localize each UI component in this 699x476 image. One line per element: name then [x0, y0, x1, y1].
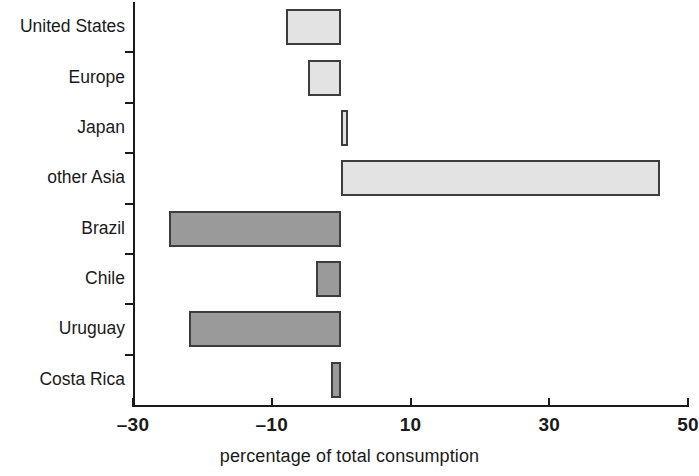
x-axis-tick-label: 30	[538, 414, 560, 436]
y-axis-category-label: Europe	[69, 67, 125, 88]
y-axis-category-label: Chile	[85, 268, 125, 289]
plot-area: United StatesEuropeJapanother AsiaBrazil…	[0, 0, 699, 476]
y-axis-category-label: United States	[20, 16, 125, 37]
y-axis-tick	[125, 152, 134, 154]
y-axis-tick	[125, 253, 134, 255]
x-axis-title: percentage of total consumption	[0, 446, 699, 467]
bar	[316, 261, 341, 297]
x-axis-tick	[271, 398, 273, 407]
bar	[341, 110, 348, 146]
y-axis-tick	[125, 303, 134, 305]
bar	[341, 160, 660, 196]
y-axis-tick	[125, 203, 134, 205]
y-axis-tick	[125, 51, 134, 53]
x-axis-tick-label: –30	[117, 414, 149, 436]
bar	[331, 362, 341, 398]
y-axis-category-label: Brazil	[81, 218, 125, 239]
x-axis-tick-label: 10	[400, 414, 422, 436]
x-axis-tick-label: –10	[256, 414, 288, 436]
y-axis-category-label: Japan	[77, 117, 125, 138]
x-axis-tick	[410, 398, 412, 407]
y-axis-tick	[125, 102, 134, 104]
y-axis-tick	[125, 354, 134, 356]
y-axis-category-label: other Asia	[47, 167, 125, 188]
x-axis-tick-label: 50	[677, 414, 699, 436]
horizontal-bar-chart: United StatesEuropeJapanother AsiaBrazil…	[0, 0, 699, 476]
x-axis-tick	[548, 398, 550, 407]
bar	[286, 9, 342, 45]
x-axis-tick	[132, 398, 134, 407]
x-axis-tick	[687, 398, 689, 407]
bar	[308, 60, 341, 96]
y-axis-spine	[133, 2, 135, 407]
y-axis-category-label: Uruguay	[59, 318, 125, 339]
y-axis-category-label: Costa Rica	[39, 369, 125, 390]
bar	[169, 211, 341, 247]
bar	[189, 311, 342, 347]
